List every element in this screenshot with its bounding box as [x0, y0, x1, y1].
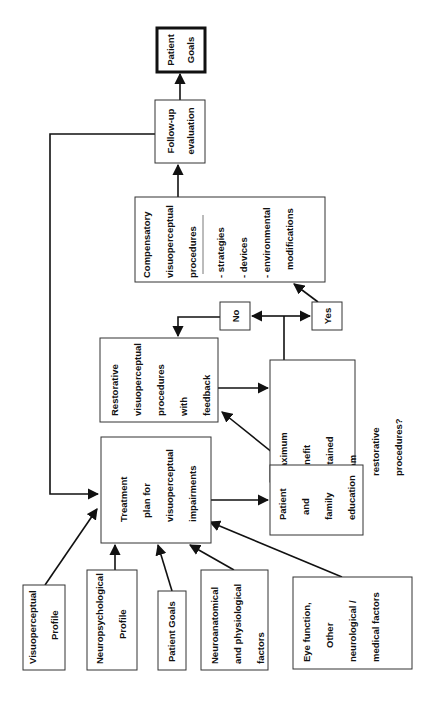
label: Visuoperceptual	[27, 590, 38, 664]
label: Profile	[117, 609, 128, 639]
label: Patient Goals	[166, 601, 177, 662]
label: factors	[255, 632, 266, 664]
node-restorative: Restorative visuoperceptual procedures w…	[100, 338, 218, 422]
label: Yes	[322, 308, 333, 324]
label: Neuroanatomical	[209, 587, 220, 664]
label: Profile	[49, 610, 60, 640]
node-follow-up: Follow-up evaluation	[155, 100, 205, 163]
label: visuoperceptual	[164, 449, 175, 522]
label: Treatment	[118, 476, 129, 522]
node-visuoperceptual-profile: Visuoperceptual Profile	[23, 585, 65, 670]
sub-item: - devices	[238, 237, 249, 278]
label: visuoperceptual	[164, 205, 175, 278]
label: evaluation	[185, 107, 196, 154]
label: visuoperceptual	[132, 343, 143, 416]
label: Neuropsychological	[94, 573, 105, 664]
label: Restorative	[109, 364, 120, 416]
edge-neuroanatomical-to-treatment	[190, 545, 234, 570]
label: procedures?	[393, 418, 404, 476]
label: Patient	[277, 487, 288, 520]
label: Goals	[185, 37, 196, 63]
sub-item: modifications	[284, 208, 295, 270]
node-maximum-benefit: Maximum benefit obtained from restorativ…	[270, 360, 404, 482]
label: Compensatory	[141, 211, 152, 278]
edge-yes-to-compensatory	[294, 284, 318, 302]
label: impairments	[187, 466, 198, 523]
label: and	[300, 498, 311, 515]
label: neurological /	[347, 600, 358, 662]
node-patient-goals-final: Patient Goals	[157, 28, 205, 72]
label: procedures	[155, 364, 166, 416]
label: No	[230, 309, 241, 322]
label: and physiological	[232, 584, 243, 664]
label: feedback	[201, 374, 212, 416]
label: plan for	[141, 483, 152, 518]
node-compensatory: Compensatory visuoperceptual procedures …	[135, 197, 325, 282]
sub-item: - environmental	[261, 207, 272, 278]
label: with	[178, 397, 189, 417]
node-treatment-plan: Treatment plan for visuoperceptual impai…	[101, 437, 211, 543]
node-no: No	[220, 302, 250, 330]
node-neuropsychological-profile: Neuropsychological Profile	[87, 570, 137, 670]
label: family	[323, 492, 334, 520]
label: procedures	[187, 226, 198, 278]
node-eye-function: Eye function, Other neurological / medic…	[293, 577, 412, 669]
label: Patient	[165, 33, 176, 66]
node-education: Patient and family education	[270, 465, 363, 535]
node-neuroanatomical: Neuroanatomical and physiological factor…	[201, 570, 268, 670]
label: Other	[324, 622, 335, 648]
edge-no-to-restorative	[178, 317, 220, 336]
node-yes: Yes	[312, 302, 342, 330]
label: restorative	[370, 427, 381, 476]
sub-item: - strategies	[215, 227, 226, 278]
label: Follow-up	[165, 108, 176, 153]
label: education	[346, 475, 357, 520]
label: Eye function,	[301, 602, 312, 662]
flowchart: Patient Goals Follow-up evaluation Compe…	[0, 0, 436, 707]
edge-patientgoals-to-treatment	[158, 545, 172, 591]
node-patient-goals-input: Patient Goals	[158, 591, 186, 670]
label: medical factors	[370, 592, 381, 662]
